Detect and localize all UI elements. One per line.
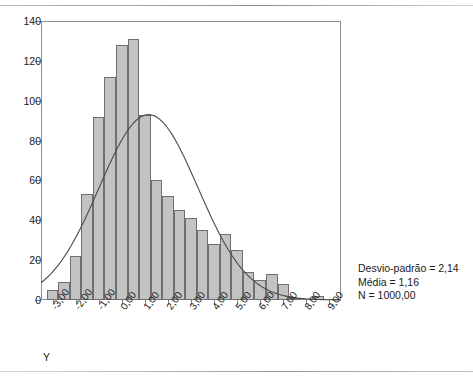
y-axis: 020406080100120140 [0, 0, 41, 378]
std-dev-text: Desvio-padrão = 2,14 [358, 262, 459, 276]
y-axis-tick-label: 60 [9, 175, 41, 185]
mean-text: Média = 1,16 [358, 276, 459, 290]
normal-distribution-curve [41, 21, 341, 300]
x-axis-title: Y [43, 351, 50, 363]
y-axis-tick-label: 120 [9, 56, 41, 66]
y-axis-tick-label: 100 [9, 96, 41, 106]
statistics-annotation: Desvio-padrão = 2,14 Média = 1,16 N = 10… [358, 262, 459, 303]
y-axis-tick-label: 20 [9, 255, 41, 265]
y-axis-tick-label: 40 [9, 215, 41, 225]
histogram-chart: 020406080100120140 Y Desvio-padrão = 2,1… [0, 0, 473, 378]
y-axis-tick-label: 0 [9, 295, 41, 305]
y-axis-tick-label: 140 [9, 16, 41, 26]
y-axis-tick-label: 80 [9, 136, 41, 146]
n-text: N = 1000,00 [358, 289, 459, 303]
